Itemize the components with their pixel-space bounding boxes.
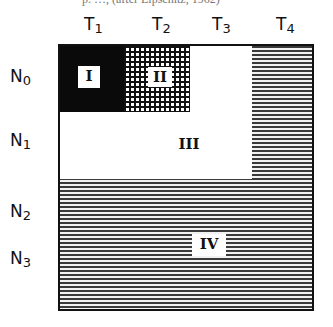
caption-fragment: p. …, (after Lipschitz, 1962) bbox=[82, 0, 220, 7]
label-region-iv: IV bbox=[192, 234, 226, 256]
label-region-i: I bbox=[78, 66, 100, 88]
column-label-t4: T4 bbox=[276, 14, 295, 36]
diagram-frame: I II III IV bbox=[58, 44, 314, 311]
row-label-n2: N2 bbox=[10, 201, 31, 223]
column-label-t2: T2 bbox=[152, 14, 171, 36]
row-label-n1: N1 bbox=[10, 130, 31, 152]
column-label-t1: T1 bbox=[84, 14, 103, 36]
label-region-iii: III bbox=[174, 134, 204, 154]
label-region-ii: II bbox=[148, 67, 172, 87]
row-label-n0: N0 bbox=[10, 66, 31, 88]
row-label-n3: N3 bbox=[10, 248, 31, 270]
column-label-t3: T3 bbox=[212, 14, 231, 36]
